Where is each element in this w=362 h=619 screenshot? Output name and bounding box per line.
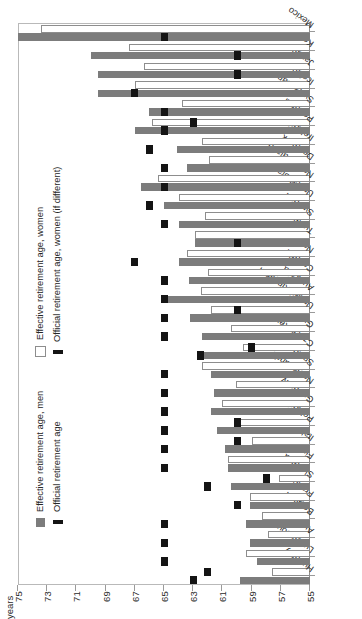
bar-effective-women	[152, 119, 310, 126]
category-tick	[310, 462, 315, 463]
category-tick	[310, 312, 315, 313]
category-tick	[310, 444, 315, 445]
category-tick	[310, 369, 315, 370]
marker-official-men	[161, 183, 168, 191]
bar-effective-women	[238, 419, 310, 426]
category-tick	[310, 181, 315, 182]
marker-official-women	[248, 343, 255, 351]
legend-women: Effective retirement age, womenOfficial …	[34, 167, 68, 357]
category-tick	[310, 219, 315, 220]
bar-effective-men	[211, 408, 310, 415]
bar-effective-women	[202, 138, 310, 145]
category-tick	[310, 275, 315, 276]
marker-official-men	[161, 295, 168, 303]
marker-official-men	[161, 276, 168, 284]
category-tick	[310, 125, 315, 126]
bar-effective-men	[257, 558, 310, 565]
bar-effective-men	[179, 258, 310, 265]
bar-effective-men	[164, 202, 310, 209]
legend-item: Effective retirement age, women	[34, 167, 47, 357]
category-tick	[310, 500, 315, 501]
bar-effective-men	[228, 464, 310, 471]
category-tick	[310, 481, 315, 482]
category-tick	[310, 256, 315, 257]
category-tick	[310, 237, 315, 238]
marker-official-women	[234, 437, 241, 445]
marker-official-women	[263, 474, 270, 482]
bar-effective-women	[236, 381, 310, 388]
category-tick	[310, 294, 315, 295]
category-tick	[310, 31, 315, 32]
category-tick	[310, 518, 315, 519]
white-square-icon	[35, 346, 46, 357]
legend-label: Effective retirement age, men	[34, 391, 47, 512]
legend-item: Effective retirement age, men	[34, 391, 47, 527]
bar-effective-women	[208, 269, 310, 276]
bar-effective-women	[231, 325, 310, 332]
marker-official-men	[161, 314, 168, 322]
marker-official-men	[190, 576, 197, 584]
marker-official-men	[204, 482, 211, 490]
bar-effective-men	[240, 577, 310, 584]
marker-official-men	[161, 445, 168, 453]
category-tick	[310, 537, 315, 538]
bar-effective-men	[211, 371, 310, 378]
marker-official-men	[161, 220, 168, 228]
marker-official-men	[197, 351, 204, 359]
category-tick	[310, 200, 315, 201]
bar-effective-women	[135, 81, 310, 88]
category-tick	[310, 556, 315, 557]
axis-tick-label: 75	[13, 591, 24, 615]
axis-tick-label: 65	[159, 591, 170, 615]
bar-effective-men	[202, 333, 310, 340]
category-tick	[310, 69, 315, 70]
bar-effective-women	[129, 44, 310, 51]
bar-effective-men	[98, 90, 310, 97]
marker-official-men	[161, 426, 168, 434]
marker-official-men	[234, 51, 241, 59]
category-tick	[310, 331, 315, 332]
bar-effective-men	[203, 352, 310, 359]
legend-men: Effective retirement age, menOfficial re…	[34, 391, 68, 527]
bar-effective-women	[209, 156, 310, 163]
legend-label: Effective retirement age, women	[34, 207, 47, 340]
bar-effective-women	[222, 400, 310, 407]
marker-official-men	[234, 239, 241, 247]
bar-effective-men	[195, 239, 310, 246]
marker-official-women	[204, 568, 211, 576]
bar-effective-women	[202, 362, 310, 369]
category-tick	[310, 163, 315, 164]
marker-official-men	[234, 70, 241, 78]
bar-effective-men	[187, 164, 310, 171]
legend-item: Official retirement age	[51, 391, 64, 527]
bar-effective-women	[211, 306, 310, 313]
legend-item: Official retirement age, women (if diffe…	[51, 167, 64, 357]
bar-effective-men	[214, 389, 310, 396]
axis-tick-label: 63	[188, 591, 199, 615]
category-tick	[310, 387, 315, 388]
marker-official-men	[234, 501, 241, 509]
marker-official-men	[161, 332, 168, 340]
bar-effective-men	[98, 71, 310, 78]
bar-effective-women	[179, 194, 310, 201]
gray-square-icon	[36, 518, 45, 527]
marker-official-men	[161, 33, 168, 41]
axis-tick-label: 57	[275, 591, 286, 615]
category-tick	[310, 106, 315, 107]
marker-official-men	[146, 201, 153, 209]
bar-effective-women	[41, 25, 310, 32]
marker-official-men	[161, 389, 168, 397]
marker-official-women	[190, 118, 197, 126]
bar-effective-men	[250, 502, 310, 509]
axis-tick-label: 59	[246, 591, 257, 615]
marker-official-men	[161, 370, 168, 378]
bar-effective-men	[179, 221, 310, 228]
marker-official-women	[234, 306, 241, 314]
category-tick	[310, 425, 315, 426]
black-bar-icon	[53, 521, 63, 525]
legend-label: Official retirement age	[51, 421, 64, 512]
marker-official-men	[161, 557, 168, 565]
bar-effective-women	[205, 213, 310, 220]
axis-tick-label: 67	[129, 591, 140, 615]
